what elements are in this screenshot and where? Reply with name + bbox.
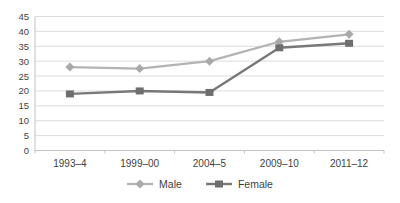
legend-item-male: Male: [127, 178, 182, 190]
x-axis-label: 1999–00: [120, 158, 159, 169]
y-axis-label: 25: [18, 71, 29, 82]
diamond-marker: [135, 64, 144, 73]
legend-item-female: Female: [206, 178, 273, 190]
square-marker: [215, 181, 223, 188]
x-axis-label: 2011–12: [330, 158, 369, 169]
chart-figure: 0510152025303540451993–41999–002004–5200…: [0, 0, 400, 203]
y-axis-label: 5: [24, 130, 29, 141]
legend-label-female: Female: [238, 178, 273, 190]
y-axis-label: 30: [18, 56, 29, 67]
diamond-marker: [136, 180, 145, 189]
y-axis-label: 45: [18, 11, 29, 22]
female-series-marker-icon: [206, 179, 232, 189]
square-marker: [136, 87, 144, 94]
y-axis-label: 0: [24, 145, 29, 156]
line-chart: 0510152025303540451993–41999–002004–5200…: [0, 0, 400, 176]
diamond-marker: [205, 57, 214, 66]
square-marker: [345, 40, 353, 47]
square-marker: [275, 44, 283, 51]
y-axis-label: 35: [18, 41, 29, 52]
y-axis-label: 40: [18, 26, 29, 37]
square-marker: [66, 90, 74, 97]
square-marker: [206, 89, 214, 96]
x-axis-label: 1993–4: [53, 158, 87, 169]
x-axis-label: 2004–5: [193, 158, 227, 169]
legend-label-male: Male: [159, 178, 182, 190]
chart-legend: Male Female: [0, 178, 400, 190]
y-axis-label: 15: [18, 100, 29, 111]
series-male: [65, 30, 353, 73]
y-axis-label: 20: [18, 85, 29, 96]
diamond-marker: [65, 63, 74, 72]
y-axis-label: 10: [18, 115, 29, 126]
male-series-marker-icon: [127, 179, 153, 189]
x-axis-label: 2009–10: [260, 158, 299, 169]
